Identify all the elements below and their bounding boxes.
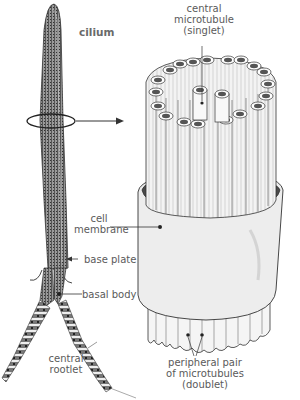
microtubule-bundle bbox=[146, 58, 276, 218]
label-line: of microtubules bbox=[160, 368, 250, 379]
label-cell-membrane: cell membrane bbox=[74, 213, 124, 235]
label-central-microtubule: central microtubule (singlet) bbox=[172, 3, 236, 36]
label-line: cell bbox=[74, 213, 124, 224]
label-line: microtubule bbox=[172, 14, 236, 25]
label-line: central bbox=[44, 353, 88, 364]
cilium-shaft bbox=[40, 4, 68, 270]
label-cilium: cilium bbox=[79, 27, 114, 38]
label-central-rootlet: central rootlet bbox=[44, 353, 88, 375]
label-line: peripheral pair bbox=[160, 357, 250, 368]
label-line: rootlet bbox=[44, 364, 88, 375]
diagram-artwork bbox=[0, 0, 300, 400]
basal-body bbox=[40, 268, 66, 306]
label-basal-body: basal body bbox=[82, 289, 137, 300]
label-peripheral-pair: peripheral pair of microtubules (doublet… bbox=[160, 357, 250, 390]
label-line: membrane bbox=[74, 224, 124, 235]
label-line: central bbox=[172, 3, 236, 14]
label-base-plate: base plate bbox=[84, 254, 136, 265]
label-line: (singlet) bbox=[172, 25, 236, 36]
cilium-diagram: cilium central microtubule (singlet) cel… bbox=[0, 0, 300, 400]
axoneme-cross-section bbox=[138, 46, 283, 356]
label-line: (doublet) bbox=[160, 379, 250, 390]
central-rootlet bbox=[2, 300, 136, 398]
